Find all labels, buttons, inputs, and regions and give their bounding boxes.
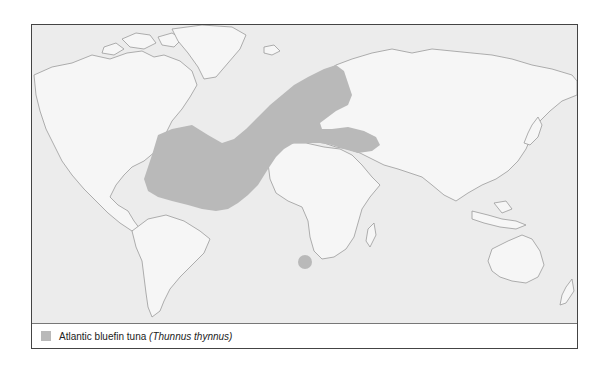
legend-scientific-name: (Thunnus thynnus) bbox=[149, 331, 232, 342]
south-africa-range bbox=[298, 255, 312, 269]
world-map-svg bbox=[32, 25, 577, 323]
world-map bbox=[32, 25, 577, 324]
legend-common-name: Atlantic bluefin tuna bbox=[59, 331, 146, 342]
map-figure: Atlantic bluefin tuna (Thunnus thynnus) bbox=[31, 24, 578, 349]
map-legend: Atlantic bluefin tuna (Thunnus thynnus) bbox=[32, 324, 577, 348]
legend-swatch bbox=[41, 331, 51, 341]
